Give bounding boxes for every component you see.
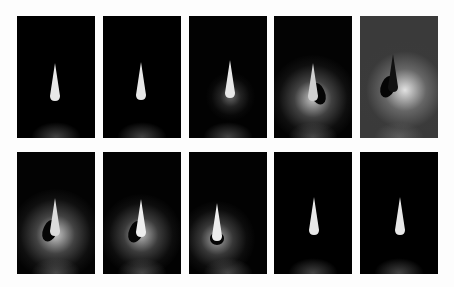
floor-reflection <box>288 122 338 138</box>
floor-reflection <box>288 258 338 274</box>
image-panel-r0-c3 <box>274 16 352 138</box>
floor-reflection <box>117 258 167 274</box>
cone-object <box>49 63 61 101</box>
cone-object <box>224 60 236 98</box>
floor-reflection <box>203 122 253 138</box>
image-panel-r0-c1 <box>103 16 181 138</box>
floor-reflection <box>31 122 81 138</box>
floor-reflection <box>374 122 424 138</box>
image-panel-r1-c1 <box>103 152 181 274</box>
cone-object <box>49 198 61 236</box>
image-panel-r1-c4 <box>360 152 438 274</box>
image-panel-r1-c3 <box>274 152 352 274</box>
image-panel-r0-c4 <box>360 16 438 138</box>
cone-object <box>135 199 147 237</box>
cone-object <box>308 197 320 235</box>
image-panel-r1-c0 <box>17 152 95 274</box>
image-panel-r0-c0 <box>17 16 95 138</box>
cone-object <box>307 63 319 101</box>
floor-reflection <box>117 122 167 138</box>
floor-reflection <box>31 258 81 274</box>
cone-object <box>135 62 147 100</box>
cone-object <box>211 203 223 241</box>
image-panel-r1-c2 <box>189 152 267 274</box>
cone-object <box>387 54 399 92</box>
floor-reflection <box>374 258 424 274</box>
image-panel-r0-c2 <box>189 16 267 138</box>
floor-reflection <box>203 258 253 274</box>
cone-object <box>394 197 406 235</box>
